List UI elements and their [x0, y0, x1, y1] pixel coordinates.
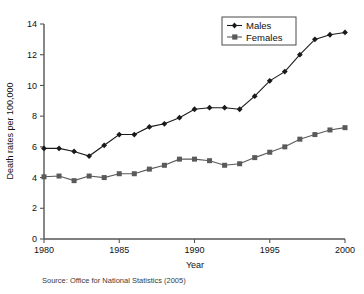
data-point-marker: [162, 163, 167, 168]
data-point-marker: [57, 174, 62, 179]
y-tick-label: 4: [32, 173, 37, 183]
y-tick-label: 2: [32, 203, 37, 213]
chart-legend: Males Females: [222, 17, 296, 45]
source-note: Source: Office for National Statistics (…: [42, 276, 186, 285]
data-point-marker: [102, 175, 107, 180]
line-chart-figure: 02468101214 19801985199019952000 Year De…: [0, 0, 364, 294]
data-point-marker: [42, 174, 47, 179]
x-tick-label: 2000: [335, 245, 355, 255]
chart-background: [0, 0, 364, 294]
data-point-marker: [267, 150, 272, 155]
data-point-marker: [327, 127, 332, 132]
y-tick-label: 14: [27, 19, 37, 29]
legend-label-females: Females: [246, 32, 283, 43]
data-point-marker: [192, 157, 197, 162]
y-tick-label: 8: [32, 111, 37, 121]
y-tick-label: 0: [32, 234, 37, 244]
y-tick-label: 10: [27, 81, 37, 91]
data-point-marker: [343, 125, 348, 130]
data-point-marker: [72, 178, 77, 183]
data-point-marker: [252, 155, 257, 160]
y-tick-label: 12: [27, 50, 37, 60]
x-tick-label: 1995: [260, 245, 280, 255]
data-point-marker: [207, 158, 212, 163]
data-point-marker: [312, 132, 317, 137]
data-point-marker: [177, 157, 182, 162]
square-marker-icon: [232, 34, 237, 39]
data-point-marker: [222, 163, 227, 168]
data-point-marker: [147, 167, 152, 172]
data-point-marker: [237, 161, 242, 166]
x-tick-label: 1985: [109, 245, 129, 255]
data-point-marker: [117, 171, 122, 176]
legend-label-males: Males: [246, 20, 272, 31]
x-tick-label: 1990: [184, 245, 204, 255]
data-point-marker: [297, 137, 302, 142]
y-tick-label: 6: [32, 142, 37, 152]
data-point-marker: [132, 171, 137, 176]
y-axis-title: Death rates per 100,000: [5, 82, 15, 179]
x-tick-label: 1980: [34, 245, 54, 255]
data-point-marker: [282, 144, 287, 149]
data-point-marker: [87, 174, 92, 179]
x-axis-title: Year: [186, 260, 204, 270]
